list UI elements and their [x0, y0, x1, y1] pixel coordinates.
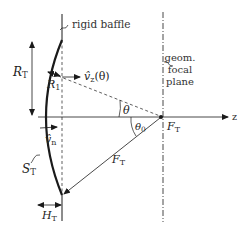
focal-plane-label-2: focal [168, 64, 192, 75]
vn-arrow [40, 127, 57, 128]
RT-label: RT [12, 65, 28, 80]
ST-leader [31, 155, 40, 163]
focal-plane-label-3: plane [166, 76, 194, 87]
focal-point-label: FT [166, 120, 181, 134]
vz-label: v̂z(θ) [84, 70, 110, 84]
transducer-geometry-diagram: rigid baffle z geom. focal plane FT RT R… [0, 0, 245, 234]
HT-label: HT [41, 209, 58, 223]
transducer-surface-curve [46, 40, 62, 195]
baffle-leader [60, 25, 68, 30]
z-axis-label: z [232, 111, 237, 122]
theta-label: θ [123, 104, 130, 117]
focal-plane-label-1: geom. [164, 52, 195, 63]
baffle-label: rigid baffle [72, 18, 131, 30]
ST-label: ST [22, 162, 36, 177]
theta0-label: θ0 [135, 121, 146, 134]
theta-arc [119, 100, 120, 117]
R1-label: R1 [46, 78, 60, 92]
vn-label: v̂n [45, 133, 56, 147]
FT-length-label: FT [111, 153, 126, 167]
